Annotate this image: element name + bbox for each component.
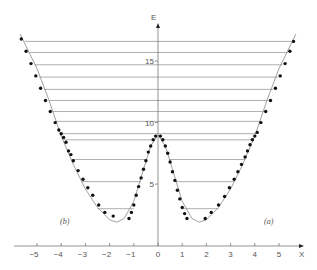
data-point xyxy=(161,138,164,141)
data-point xyxy=(44,99,47,102)
x-tick-label: −5 xyxy=(29,250,39,259)
data-point xyxy=(64,141,67,144)
y-tick-label: 10 xyxy=(145,119,154,128)
data-point xyxy=(236,170,239,173)
data-point xyxy=(152,138,155,141)
data-point xyxy=(112,214,115,217)
data-point xyxy=(233,178,236,181)
x-tick-label: 3 xyxy=(228,250,233,259)
data-point xyxy=(24,50,27,53)
y-axis-label: E xyxy=(151,13,156,22)
data-point xyxy=(185,217,188,220)
x-tick-label: −4 xyxy=(54,250,64,259)
data-point xyxy=(171,170,174,173)
data-point xyxy=(183,212,186,215)
data-point xyxy=(130,211,133,214)
data-point xyxy=(178,197,181,200)
data-point xyxy=(67,149,70,152)
data-point xyxy=(20,37,23,40)
data-point xyxy=(69,153,72,156)
data-point xyxy=(57,128,60,131)
data-point xyxy=(253,134,256,137)
data-point xyxy=(132,203,135,206)
data-point xyxy=(159,134,162,137)
data-point xyxy=(166,152,169,155)
data-point xyxy=(279,74,282,77)
data-point xyxy=(210,211,213,214)
data-point xyxy=(168,160,171,163)
x-tick-label: −1 xyxy=(126,250,136,259)
y-axis-arrow-icon xyxy=(156,23,160,28)
data-point xyxy=(181,206,184,209)
data-point xyxy=(49,110,52,113)
data-point xyxy=(72,159,75,162)
data-point xyxy=(274,87,277,90)
x-axis-arrow-icon xyxy=(299,244,304,248)
data-point xyxy=(39,87,42,90)
data-point xyxy=(240,163,243,166)
data-point xyxy=(204,217,207,220)
data-point xyxy=(81,178,84,181)
data-point xyxy=(176,189,179,192)
y-tick-label: 5 xyxy=(150,180,155,189)
double-well-chart: −5−4−3−2−101234551015 E X (a) (b) xyxy=(0,0,317,270)
data-point xyxy=(173,179,176,182)
data-point xyxy=(164,144,167,147)
x-tick-label: 1 xyxy=(180,250,185,259)
x-tick-label: 4 xyxy=(253,250,258,259)
data-point xyxy=(256,131,259,134)
data-point xyxy=(103,211,106,214)
data-point xyxy=(60,132,63,135)
data-point xyxy=(149,144,152,147)
data-point xyxy=(264,110,267,113)
x-tick-label: 2 xyxy=(204,250,209,259)
data-point xyxy=(139,176,142,179)
data-point xyxy=(97,203,100,206)
data-point xyxy=(269,99,272,102)
data-point xyxy=(154,134,157,137)
data-point xyxy=(127,217,130,220)
data-point xyxy=(292,40,295,43)
data-point xyxy=(142,168,145,171)
data-point xyxy=(288,50,291,53)
x-tick-label: −3 xyxy=(78,250,88,259)
data-point xyxy=(135,194,138,197)
x-tick-label: 0 xyxy=(156,250,161,259)
data-point xyxy=(283,62,286,65)
data-point xyxy=(223,195,226,198)
data-point xyxy=(137,185,140,188)
panel-label-b: (b) xyxy=(60,217,70,226)
data-point xyxy=(228,186,231,189)
data-point xyxy=(259,121,262,124)
panel-label-a: (a) xyxy=(264,217,274,226)
data-point xyxy=(76,169,79,172)
data-point xyxy=(29,62,32,65)
x-tick-label: 5 xyxy=(277,250,282,259)
data-point xyxy=(217,203,220,206)
data-point xyxy=(144,159,147,162)
x-axis-label: X xyxy=(299,250,305,259)
x-tick-label: −2 xyxy=(102,250,112,259)
data-point xyxy=(251,138,254,141)
data-point xyxy=(243,155,246,158)
data-point xyxy=(86,186,89,189)
data-point xyxy=(34,74,37,77)
y-tick-label: 15 xyxy=(145,57,154,66)
data-point xyxy=(248,143,251,146)
data-point xyxy=(246,149,249,152)
data-point xyxy=(54,121,57,124)
data-point xyxy=(91,194,94,197)
data-point xyxy=(62,136,65,139)
data-point xyxy=(147,150,150,153)
